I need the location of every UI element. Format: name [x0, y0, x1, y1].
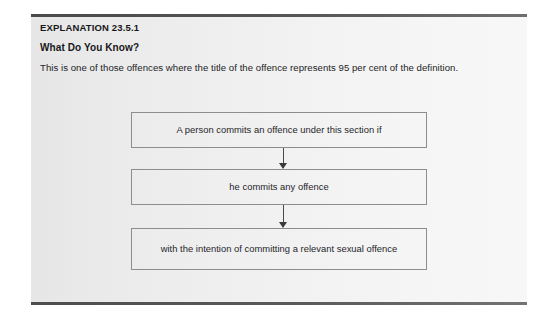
- flow-step-3-label: with the intention of committing a relev…: [153, 242, 406, 256]
- flow-step-1: A person commits an offence under this s…: [131, 112, 427, 148]
- panel-subheading: What Do You Know?: [40, 42, 518, 54]
- flow-step-3: with the intention of committing a relev…: [131, 228, 427, 270]
- flow-step-2: he commits any offence: [131, 169, 427, 205]
- explanation-title: EXPLANATION 23.5.1: [40, 22, 518, 34]
- panel-heading-block: EXPLANATION 23.5.1 What Do You Know? Thi…: [40, 22, 518, 74]
- flow-step-2-label: he commits any offence: [221, 180, 336, 194]
- panel-top-rule: [31, 14, 527, 17]
- panel-body-text: This is one of those offences where the …: [40, 61, 518, 74]
- flow-connector-2: [278, 205, 289, 227]
- panel-bottom-rule: [31, 302, 527, 305]
- flow-connector-1: [278, 148, 289, 168]
- flow-step-1-label: A person commits an offence under this s…: [168, 123, 389, 137]
- page-root: EXPLANATION 23.5.1 What Do You Know? Thi…: [0, 0, 557, 317]
